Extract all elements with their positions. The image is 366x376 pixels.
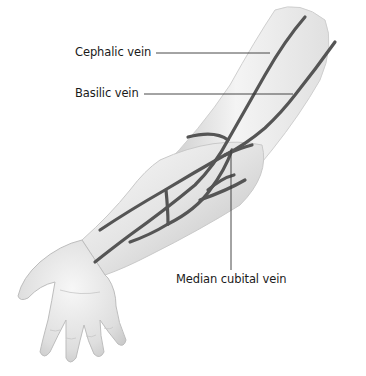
label-median-cubital-vein: Median cubital vein <box>176 272 286 286</box>
forearm <box>82 142 264 275</box>
arm-vein-diagram: Cephalic vein Basilic vein Median cubita… <box>0 0 366 376</box>
label-cephalic-vein: Cephalic vein <box>75 45 151 59</box>
label-basilic-vein: Basilic vein <box>75 86 139 100</box>
arm-illustration <box>0 0 366 376</box>
